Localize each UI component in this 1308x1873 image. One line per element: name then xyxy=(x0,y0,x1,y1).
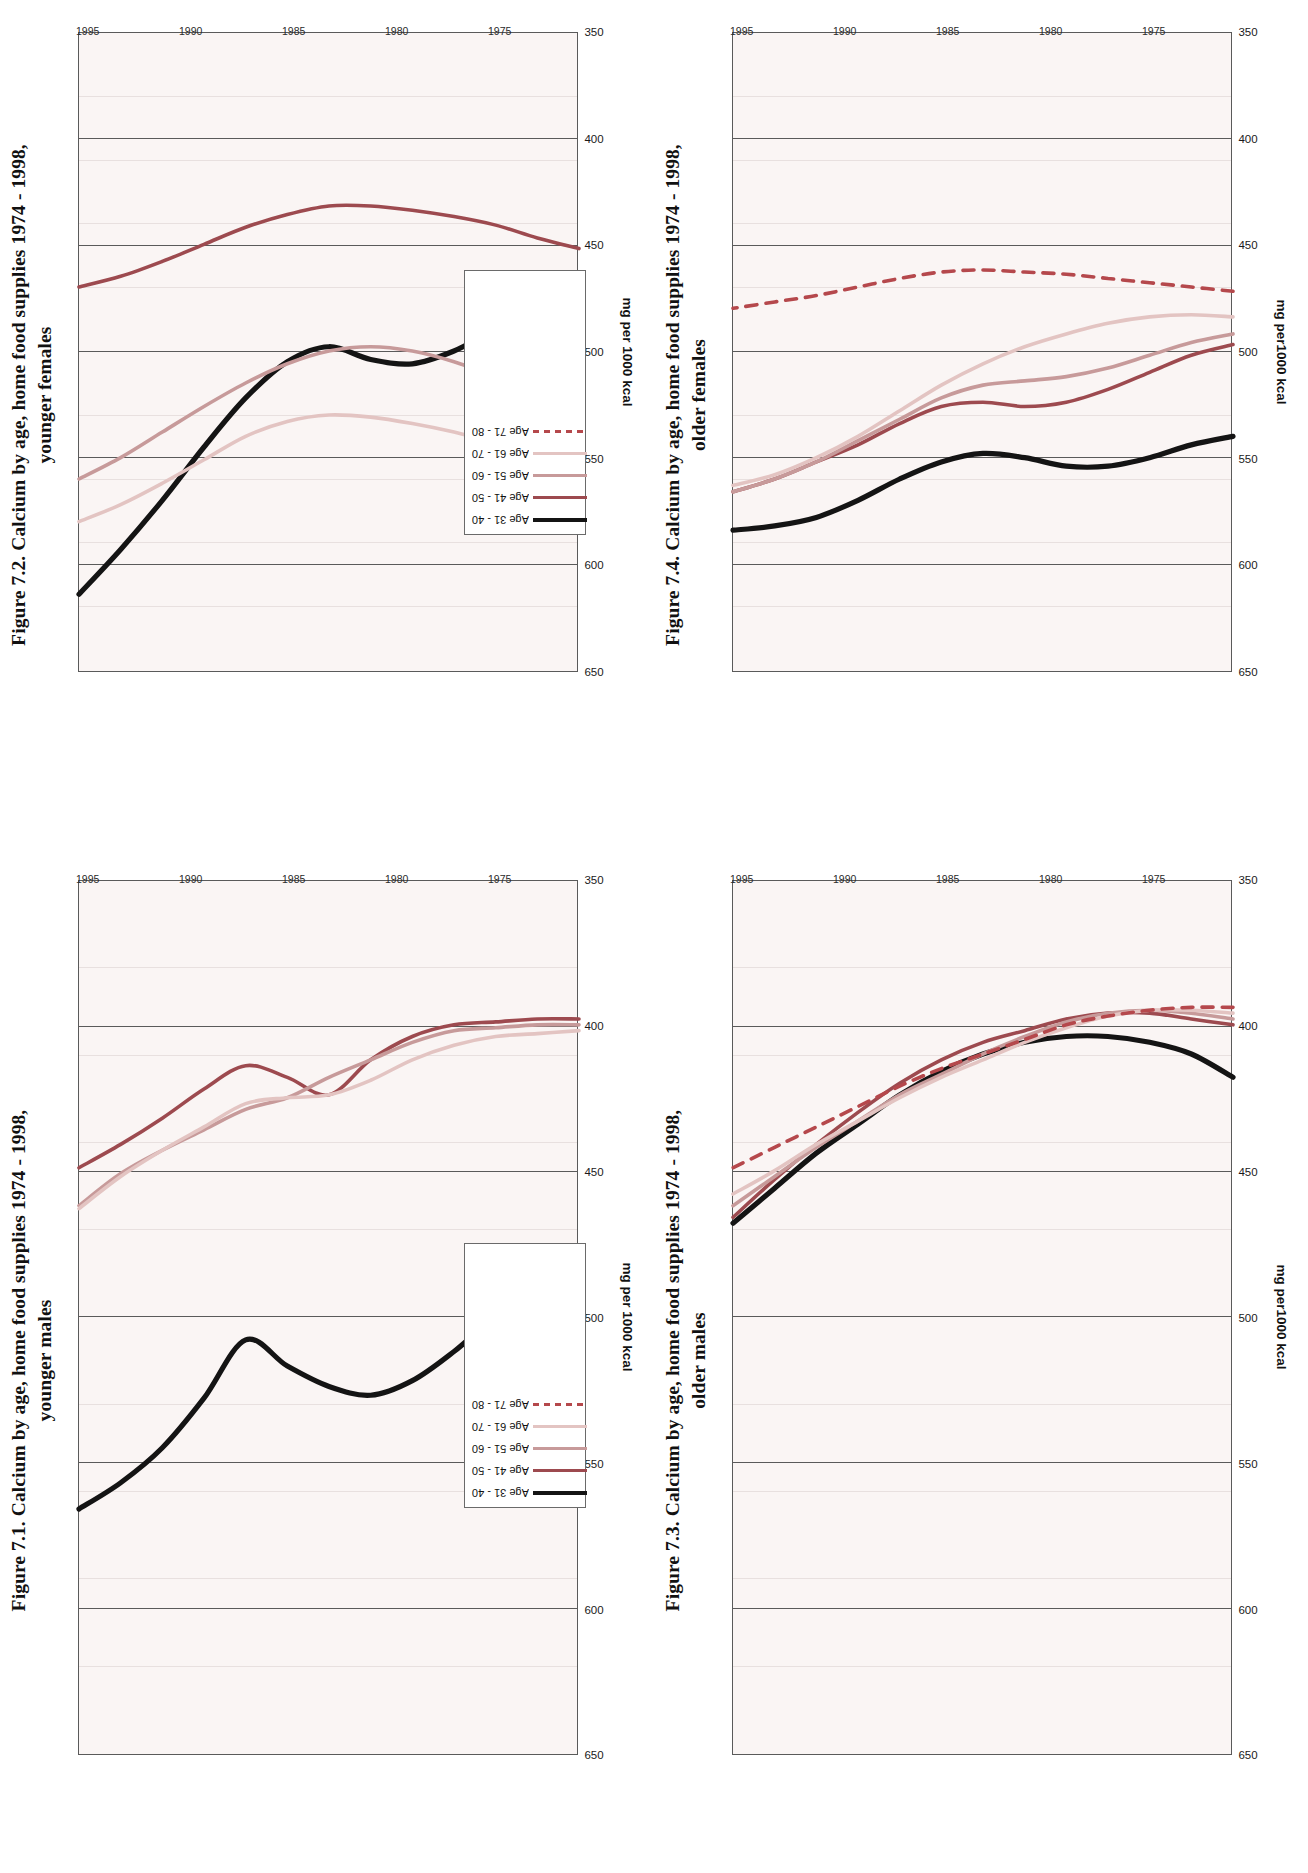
x-tick: 1995 xyxy=(76,873,99,885)
y-tick: 650 xyxy=(584,1749,603,1761)
y-tick: 600 xyxy=(584,1604,603,1616)
legend-label: Age 41 - 50 xyxy=(472,492,529,504)
y-tick: 450 xyxy=(1238,239,1257,251)
x-tick: 1980 xyxy=(385,25,408,37)
legend-label: Age 71 - 80 xyxy=(472,426,529,438)
figure-7-3-canvas: Figure 7.3. Calcium by age, home food su… xyxy=(654,848,1308,1873)
figure-7-4: Figure 7.4. Calcium by age, home food su… xyxy=(654,0,1308,800)
x-tick: 1985 xyxy=(282,873,305,885)
y-tick: 400 xyxy=(1238,133,1257,145)
y-tick: 400 xyxy=(584,133,603,145)
y-tick: 550 xyxy=(1238,1458,1257,1470)
figure-7-3: Figure 7.3. Calcium by age, home food su… xyxy=(654,800,1308,1873)
y-tick: 650 xyxy=(1238,666,1257,678)
x-tick: 1980 xyxy=(1039,25,1062,37)
x-tick: 1990 xyxy=(833,25,856,37)
x-tick: 1975 xyxy=(488,25,511,37)
figure-7-3-plot-area xyxy=(732,880,1232,1755)
figure-7-3-legend[interactable]: Age 31 - 40 Age 41 - 50 Age 51 - 60 Age … xyxy=(464,1243,586,1508)
y-tick: 500 xyxy=(584,346,603,358)
y-tick: 400 xyxy=(584,1020,603,1032)
legend-swatch xyxy=(533,1470,587,1473)
figure-7-4-plot-area xyxy=(732,32,1232,672)
x-tick: 1995 xyxy=(730,873,753,885)
legend-label: Age 31 - 40 xyxy=(472,1487,529,1499)
y-tick: 650 xyxy=(584,666,603,678)
legend-label: Age 51 - 60 xyxy=(472,1443,529,1455)
figure-7-4-title: Figure 7.4. Calcium by age, home food su… xyxy=(660,10,713,780)
y-tick: 550 xyxy=(584,1458,603,1470)
y-tick: 450 xyxy=(584,239,603,251)
legend-item[interactable]: Age 41 - 50 xyxy=(472,492,587,504)
legend-swatch xyxy=(533,497,587,500)
y-tick: 500 xyxy=(1238,346,1257,358)
figure-7-3-title: Figure 7.3. Calcium by age, home food su… xyxy=(660,858,713,1863)
y-tick: 600 xyxy=(584,559,603,571)
y-tick: 450 xyxy=(584,1166,603,1178)
legend-swatch xyxy=(533,1426,587,1429)
y-tick: 500 xyxy=(1238,1312,1257,1324)
legend-item[interactable]: Age 41 - 50 xyxy=(472,1465,587,1477)
figure-7-4-y-axis-title: mg per1000 kcal xyxy=(1274,299,1289,404)
legend-item[interactable]: Age 31 - 40 xyxy=(472,514,587,526)
legend-label: Age 71 - 80 xyxy=(472,1399,529,1411)
figure-7-2-y-axis-title: mg per 1000 kcal xyxy=(620,298,635,407)
y-tick: 350 xyxy=(1238,26,1257,38)
figure-7-1-y-axis-title: mg per 1000 kcal xyxy=(620,1263,635,1372)
y-tick: 400 xyxy=(1238,1020,1257,1032)
x-tick: 1980 xyxy=(385,873,408,885)
legend-item[interactable]: Age 71 - 80 xyxy=(472,1399,587,1411)
legend-item[interactable]: Age 61 - 70 xyxy=(472,1421,587,1433)
y-tick: 550 xyxy=(1238,453,1257,465)
figure-7-4-canvas: Figure 7.4. Calcium by age, home food su… xyxy=(654,0,1308,790)
figure-7-3-y-axis-title: mg per1000 kcal xyxy=(1274,1264,1289,1369)
figure-7-3-lines xyxy=(733,879,1233,1754)
y-tick: 600 xyxy=(1238,1604,1257,1616)
legend-item[interactable]: Age 71 - 80 xyxy=(472,426,587,438)
legend-item[interactable]: Age 31 - 40 xyxy=(472,1487,587,1499)
y-tick: 650 xyxy=(1238,1749,1257,1761)
legend-swatch xyxy=(533,475,587,478)
x-tick: 1985 xyxy=(936,25,959,37)
y-tick: 550 xyxy=(584,453,603,465)
figure-7-1-title: Figure 7.1. Calcium by age, home food su… xyxy=(6,858,59,1863)
legend-label: Age 61 - 70 xyxy=(472,1421,529,1433)
legend-swatch xyxy=(533,518,587,522)
x-tick: 1990 xyxy=(179,25,202,37)
y-tick: 350 xyxy=(584,26,603,38)
y-tick: 350 xyxy=(584,874,603,886)
x-tick: 1975 xyxy=(1142,873,1165,885)
x-tick: 1975 xyxy=(1142,25,1165,37)
legend-label: Age 61 - 70 xyxy=(472,448,529,460)
legend-label: Age 41 - 50 xyxy=(472,1465,529,1477)
figure-7-2-title: Figure 7.2. Calcium by age, home food su… xyxy=(6,10,59,780)
legend-item[interactable]: Age 51 - 60 xyxy=(472,1443,587,1455)
x-tick: 1985 xyxy=(936,873,959,885)
x-tick: 1995 xyxy=(730,25,753,37)
figure-7-4-lines xyxy=(733,31,1233,671)
y-tick: 350 xyxy=(1238,874,1257,886)
legend-item[interactable]: Age 51 - 60 xyxy=(472,470,587,482)
x-tick: 1990 xyxy=(179,873,202,885)
y-tick: 450 xyxy=(1238,1166,1257,1178)
figure-7-4-legend[interactable]: Age 31 - 40 Age 41 - 50 Age 51 - 60 Age … xyxy=(464,270,586,535)
x-tick: 1995 xyxy=(76,25,99,37)
legend-item[interactable]: Age 61 - 70 xyxy=(472,448,587,460)
y-tick: 500 xyxy=(584,1312,603,1324)
x-tick: 1975 xyxy=(488,873,511,885)
legend-swatch xyxy=(533,453,587,456)
x-tick: 1980 xyxy=(1039,873,1062,885)
y-tick: 600 xyxy=(1238,559,1257,571)
legend-swatch-dashed xyxy=(533,431,587,434)
legend-swatch xyxy=(533,1491,587,1495)
x-tick: 1985 xyxy=(282,25,305,37)
legend-swatch xyxy=(533,1448,587,1451)
legend-swatch-dashed xyxy=(533,1404,587,1407)
x-tick: 1990 xyxy=(833,873,856,885)
legend-label: Age 31 - 40 xyxy=(472,514,529,526)
legend-label: Age 51 - 60 xyxy=(472,470,529,482)
